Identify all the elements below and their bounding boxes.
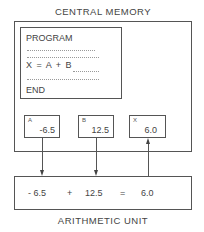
register-b-value: 12.5 [91, 125, 109, 135]
register-a-value: -6.5 [39, 125, 55, 135]
dotted-line [27, 50, 95, 51]
dotted-line [27, 57, 99, 58]
arithmetic-unit-title: ARITHMETIC UNIT [14, 215, 192, 226]
arrow-a-line [42, 138, 43, 171]
arrow-up-icon [146, 138, 150, 144]
register-x-value: 6.0 [144, 125, 157, 135]
register-b-label: B [82, 117, 86, 123]
register-x: X 6.0 [129, 115, 166, 138]
central-memory-title: CENTRAL MEMORY [14, 6, 192, 17]
equals-sign: = [120, 188, 125, 198]
arithmetic-unit-box: - 6.5 + 12.5 = 6.0 [14, 176, 192, 210]
arrow-x-line [148, 144, 149, 176]
arrow-b-line [96, 138, 97, 171]
program-footer: END [26, 85, 45, 95]
program-statement: X = A + B [26, 60, 72, 70]
operand-1: - 6.5 [28, 188, 46, 198]
operand-2: 12.5 [85, 188, 103, 198]
program-box: PROGRAM X = A + B END [20, 27, 122, 99]
result: 6.0 [141, 188, 154, 198]
register-a-label: A [28, 117, 32, 123]
program-header: PROGRAM [26, 33, 73, 43]
register-x-label: X [133, 117, 137, 123]
register-b: B 12.5 [78, 115, 114, 138]
dotted-line [73, 71, 99, 72]
operator-plus: + [67, 188, 72, 198]
register-a: A -6.5 [24, 115, 60, 138]
dotted-line [27, 79, 99, 80]
